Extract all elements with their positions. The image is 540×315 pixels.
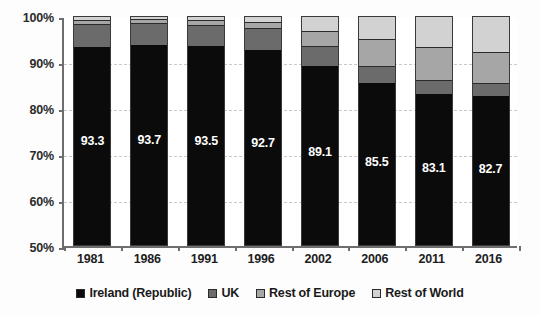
bar-1986[interactable]: 93.7 bbox=[130, 16, 168, 246]
x-tick-label-2011: 2011 bbox=[402, 252, 462, 266]
x-tick-label-2006: 2006 bbox=[345, 252, 405, 266]
y-tick-label: 100% bbox=[6, 11, 54, 25]
bar-1981[interactable]: 93.3 bbox=[73, 16, 111, 246]
y-tick-label: 50% bbox=[6, 241, 54, 255]
bar-2011[interactable]: 83.1 bbox=[415, 16, 453, 246]
legend-label: UK bbox=[221, 286, 239, 300]
x-tick-label-2002: 2002 bbox=[288, 252, 348, 266]
stacked-bar-chart: 93.393.793.592.789.185.583.182.7 100%90%… bbox=[0, 0, 540, 315]
x-tick-label-2016: 2016 bbox=[459, 252, 519, 266]
bar-value-label-2011: 83.1 bbox=[415, 161, 453, 175]
bar-2006[interactable]: 85.5 bbox=[358, 16, 396, 246]
bar-segment-2016-rest-of-world[interactable] bbox=[472, 16, 510, 52]
bar-1991[interactable]: 93.5 bbox=[187, 16, 225, 246]
bar-value-label-2002: 89.1 bbox=[301, 145, 339, 159]
legend-label: Rest of World bbox=[385, 286, 463, 300]
y-tick-label: 80% bbox=[6, 103, 54, 117]
x-tick-label-1986: 1986 bbox=[117, 252, 177, 266]
legend-item-ireland-republic[interactable]: Ireland (Republic) bbox=[76, 286, 191, 300]
legend-label: Ireland (Republic) bbox=[89, 286, 191, 300]
x-tick-mark bbox=[462, 246, 464, 251]
bar-segment-2011-rest-of-europe[interactable] bbox=[415, 47, 453, 79]
bar-value-label-1991: 93.5 bbox=[187, 134, 225, 148]
x-tick-label-1991: 1991 bbox=[174, 252, 234, 266]
bar-segment-2011-uk[interactable] bbox=[415, 80, 453, 94]
legend-swatch-icon bbox=[76, 289, 85, 298]
bar-segment-2016-uk[interactable] bbox=[472, 83, 510, 95]
y-tick-mark bbox=[59, 202, 64, 204]
y-tick-label: 60% bbox=[6, 195, 54, 209]
x-tick-mark bbox=[292, 246, 294, 251]
y-tick-label: 70% bbox=[6, 149, 54, 163]
x-tick-mark bbox=[519, 246, 521, 251]
bar-segment-1986-uk[interactable] bbox=[130, 23, 168, 45]
legend-swatch-icon bbox=[372, 289, 381, 298]
bar-segment-2006-uk[interactable] bbox=[358, 66, 396, 83]
bar-segment-1991-uk[interactable] bbox=[187, 25, 225, 46]
bar-segment-2011-rest-of-world[interactable] bbox=[415, 16, 453, 47]
y-tick-label: 90% bbox=[6, 57, 54, 71]
x-tick-label-1996: 1996 bbox=[231, 252, 291, 266]
x-tick-mark bbox=[64, 246, 66, 251]
x-tick-mark bbox=[348, 246, 350, 251]
y-tick-mark bbox=[59, 64, 64, 66]
y-tick-mark bbox=[59, 110, 64, 112]
bar-segment-2002-rest-of-world[interactable] bbox=[301, 16, 339, 31]
legend-swatch-icon bbox=[208, 289, 217, 298]
x-tick-mark bbox=[235, 246, 237, 251]
bar-value-label-1996: 92.7 bbox=[244, 136, 282, 150]
bar-value-label-1981: 93.3 bbox=[73, 134, 111, 148]
bar-segment-2002-uk[interactable] bbox=[301, 46, 339, 66]
legend-swatch-icon bbox=[256, 289, 265, 298]
bar-2016[interactable]: 82.7 bbox=[472, 16, 510, 246]
legend-item-rest-of-europe[interactable]: Rest of Europe bbox=[256, 286, 355, 300]
bar-segment-2002-rest-of-europe[interactable] bbox=[301, 31, 339, 47]
bar-1996[interactable]: 92.7 bbox=[244, 16, 282, 246]
bar-value-label-1986: 93.7 bbox=[130, 133, 168, 147]
x-tick-mark bbox=[405, 246, 407, 251]
bar-segment-2006-rest-of-world[interactable] bbox=[358, 16, 396, 39]
bar-segment-1996-uk[interactable] bbox=[244, 28, 282, 50]
plot-area: 93.393.793.592.789.185.583.182.7 bbox=[62, 18, 517, 248]
bar-segment-2016-rest-of-europe[interactable] bbox=[472, 52, 510, 83]
legend-label: Rest of Europe bbox=[269, 286, 355, 300]
bar-value-label-2016: 82.7 bbox=[472, 162, 510, 176]
y-tick-mark bbox=[59, 18, 64, 20]
legend-item-uk[interactable]: UK bbox=[208, 286, 239, 300]
bar-value-label-2006: 85.5 bbox=[358, 155, 396, 169]
x-tick-mark bbox=[121, 246, 123, 251]
bar-segment-2006-rest-of-europe[interactable] bbox=[358, 39, 396, 67]
bar-segment-1981-uk[interactable] bbox=[73, 24, 111, 47]
legend-item-rest-of-world[interactable]: Rest of World bbox=[372, 286, 463, 300]
chart-legend: Ireland (Republic)UKRest of EuropeRest o… bbox=[0, 286, 540, 300]
y-tick-mark bbox=[59, 156, 64, 158]
x-tick-label-1981: 1981 bbox=[60, 252, 120, 266]
x-tick-mark bbox=[178, 246, 180, 251]
bar-2002[interactable]: 89.1 bbox=[301, 16, 339, 246]
